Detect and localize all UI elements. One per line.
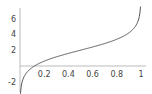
y-tick-label: -2 <box>8 78 16 87</box>
x-tick-label: 0.2 <box>38 70 51 79</box>
chart: 0.20.40.60.81 -2246 <box>0 0 152 94</box>
x-tick-label: 0.6 <box>86 70 99 79</box>
y-tick-label: 6 <box>11 15 16 24</box>
data-line <box>20 7 140 94</box>
x-tick-label: 1 <box>138 70 143 79</box>
y-tick-labels: -2246 <box>8 15 16 87</box>
x-tick-label: 0.8 <box>110 70 123 79</box>
x-tick-label: 0.4 <box>62 70 75 79</box>
y-tick-label: 2 <box>11 46 16 55</box>
x-tick-labels: 0.20.40.60.81 <box>38 70 144 79</box>
y-tick-label: 4 <box>11 30 16 39</box>
